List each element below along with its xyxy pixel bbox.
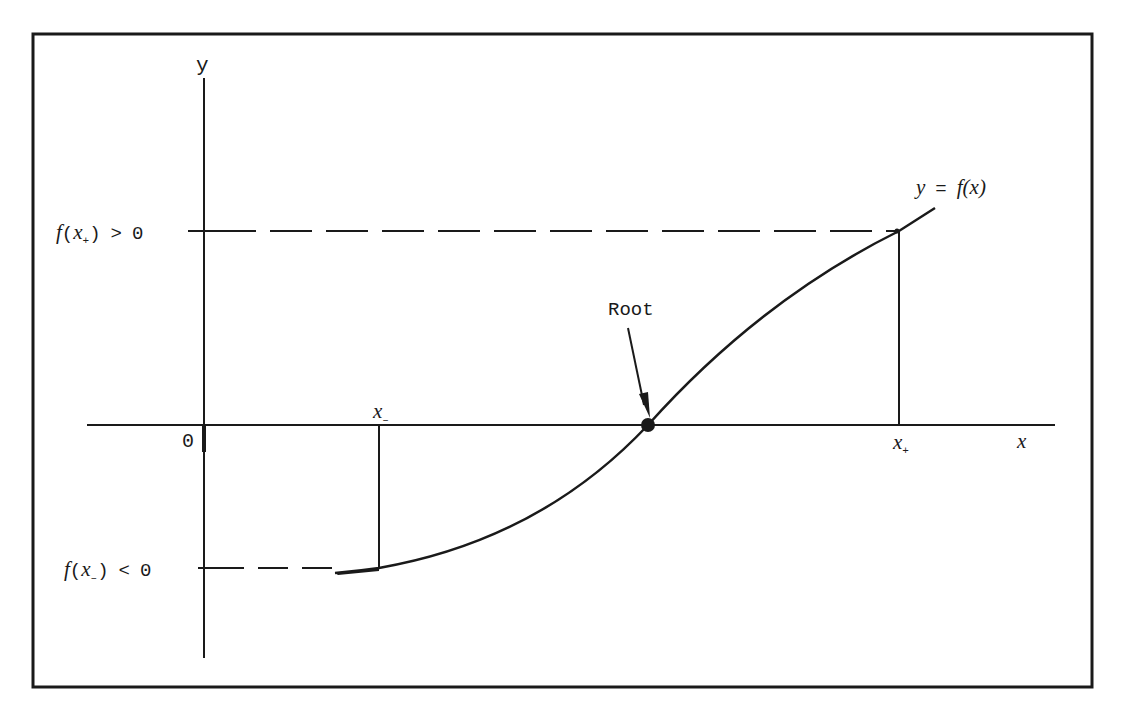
x-minus-sub: –	[382, 414, 389, 426]
x-plus-curve-point	[895, 229, 900, 234]
root-bracketing-diagram: + y x 0 y=f(x) Root x– x+ f(x+)>0 f(x–)<…	[0, 0, 1122, 711]
root-label: Root	[608, 301, 654, 320]
f-plus-sub: +	[83, 235, 90, 247]
x-minus-label: x–	[373, 401, 389, 423]
f-minus-var: x	[81, 557, 90, 581]
f-minus-sub: –	[91, 572, 98, 584]
origin-label: 0	[182, 432, 194, 452]
f-plus-rel: >	[111, 223, 122, 245]
f-plus-close: )	[89, 223, 100, 245]
x-plus-sub: +	[902, 445, 909, 457]
figure-frame	[33, 34, 1092, 687]
f-plus-val: 0	[132, 223, 143, 245]
f-plus-open: (	[62, 223, 73, 245]
y-axis-label: y	[196, 55, 209, 76]
f-minus-val: 0	[140, 560, 151, 582]
f-minus-rel: <	[119, 560, 130, 582]
curve-label: y=f(x)	[916, 177, 986, 199]
curve-label-arg: (x)	[963, 175, 986, 199]
f-minus-open: (	[70, 560, 81, 582]
f-plus-var: x	[73, 220, 82, 244]
function-curve	[335, 208, 935, 573]
diagram-canvas	[0, 0, 1122, 711]
f-minus-condition-label: f(x–)<0	[64, 559, 151, 581]
x-minus-var: x	[373, 399, 382, 423]
stray-plus-mark: +	[258, 0, 265, 4]
curve-label-lhs: y	[916, 175, 925, 199]
x-axis-label: x	[1017, 431, 1026, 452]
x-plus-label: x+	[893, 432, 909, 454]
curve-label-equals: =	[935, 178, 946, 200]
root-point	[641, 418, 655, 432]
x-plus-var: x	[893, 430, 902, 454]
f-minus-close: )	[97, 560, 108, 582]
f-plus-condition-label: f(x+)>0	[56, 222, 143, 244]
root-arrowhead-icon	[639, 392, 650, 418]
